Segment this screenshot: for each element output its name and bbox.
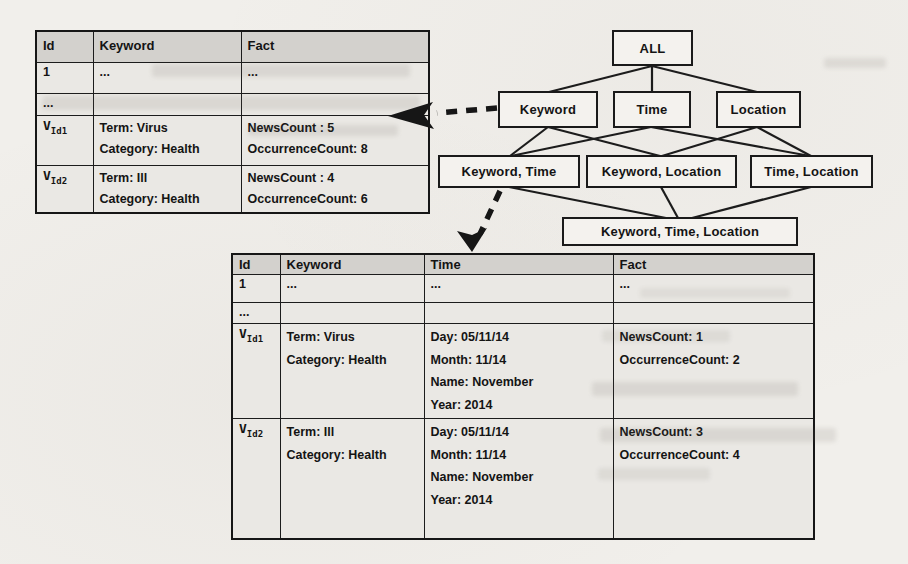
table-row: VId1 Term: Virus Category: Health NewsCo… bbox=[36, 115, 429, 165]
table-row: ... bbox=[232, 303, 814, 324]
table-header-row: Id Keyword Time Fact bbox=[232, 254, 814, 275]
table-row: VId2 Term: Ill Category: Health NewsCoun… bbox=[36, 165, 429, 213]
cell-keyword bbox=[93, 93, 241, 115]
lattice-node-label: Time, Location bbox=[764, 164, 858, 179]
lattice-node-time-location: Time, Location bbox=[750, 155, 873, 188]
cell-fact: ... bbox=[241, 62, 429, 93]
lattice-node-label: Keyword bbox=[520, 102, 576, 117]
cell-fact: NewsCount : 4 OccurrenceCount: 6 bbox=[241, 165, 429, 213]
cell-time: Day: 05/11/14 Month: 11/14 Name: Novembe… bbox=[424, 419, 613, 539]
cell-id: ... bbox=[36, 93, 93, 115]
cell-keyword: ... bbox=[93, 62, 241, 93]
cell-time: ... bbox=[424, 275, 613, 303]
cell-fact bbox=[241, 93, 429, 115]
cell-fact: NewsCount: 1 OccurrenceCount: 2 bbox=[613, 324, 814, 419]
cell-id: VId2 bbox=[232, 419, 280, 539]
cell-keyword: ... bbox=[280, 275, 424, 303]
cell-id: VId1 bbox=[36, 115, 93, 165]
lattice-node-label: Time bbox=[637, 102, 668, 117]
lattice-node-keyword: Keyword bbox=[498, 91, 598, 128]
cell-keyword bbox=[280, 303, 424, 324]
lattice-node-keyword-time-location: Keyword, Time, Location bbox=[562, 217, 798, 246]
col-header-id: Id bbox=[36, 31, 93, 62]
cell-keyword: Term: Virus Category: Health bbox=[280, 324, 424, 419]
lattice-node-label: Keyword, Time bbox=[462, 164, 557, 179]
keyword-time-fact-table: Id Keyword Time Fact 1 ... ... ... ... V… bbox=[231, 253, 815, 540]
col-header-keyword: Keyword bbox=[93, 31, 241, 62]
col-header-keyword: Keyword bbox=[280, 254, 424, 275]
scanned-figure-canvas: ALL Keyword Time Location Keyword, Time … bbox=[0, 0, 908, 564]
cell-fact: NewsCount: 3 OccurrenceCount: 4 bbox=[613, 419, 814, 539]
cell-keyword: Term: Ill Category: Health bbox=[93, 165, 241, 213]
col-header-time: Time bbox=[424, 254, 613, 275]
cell-keyword: Term: Ill Category: Health bbox=[280, 419, 424, 539]
cell-id: 1 bbox=[36, 62, 93, 93]
cell-fact bbox=[613, 303, 814, 324]
cell-id: VId1 bbox=[232, 324, 280, 419]
lattice-node-keyword-location: Keyword, Location bbox=[586, 155, 737, 188]
dashed-arrow-to-keyword-time-table bbox=[457, 191, 500, 252]
lattice-node-label: Keyword, Location bbox=[602, 164, 722, 179]
cell-id: 1 bbox=[232, 275, 280, 303]
lattice-node-label: Keyword, Time, Location bbox=[601, 224, 759, 239]
lattice-node-time: Time bbox=[613, 91, 691, 128]
table-row: 1 ... ... bbox=[36, 62, 429, 93]
lattice-node-location: Location bbox=[716, 91, 801, 128]
cell-fact: ... bbox=[613, 275, 814, 303]
bleed-smudge bbox=[824, 58, 886, 68]
cell-id: VId2 bbox=[36, 165, 93, 213]
table-header-row: Id Keyword Fact bbox=[36, 31, 429, 62]
cell-time: Day: 05/11/14 Month: 11/14 Name: Novembe… bbox=[424, 324, 613, 419]
lattice-node-all: ALL bbox=[612, 30, 693, 66]
lattice-node-label: ALL bbox=[640, 41, 666, 56]
cell-id: ... bbox=[232, 303, 280, 324]
col-header-fact: Fact bbox=[241, 31, 429, 62]
table-row: VId1 Term: Virus Category: Health Day: 0… bbox=[232, 324, 814, 419]
table-row: 1 ... ... ... bbox=[232, 275, 814, 303]
cell-time bbox=[424, 303, 613, 324]
cell-keyword: Term: Virus Category: Health bbox=[93, 115, 241, 165]
lattice-node-label: Location bbox=[731, 102, 787, 117]
col-header-fact: Fact bbox=[613, 254, 814, 275]
cell-fact: NewsCount : 5 OccurrenceCount: 8 bbox=[241, 115, 429, 165]
keyword-fact-table: Id Keyword Fact 1 ... ... ... VId1 Term:… bbox=[35, 30, 430, 214]
table-row: ... bbox=[36, 93, 429, 115]
col-header-id: Id bbox=[232, 254, 280, 275]
table-row: VId2 Term: Ill Category: Health Day: 05/… bbox=[232, 419, 814, 539]
lattice-node-keyword-time: Keyword, Time bbox=[438, 155, 580, 188]
